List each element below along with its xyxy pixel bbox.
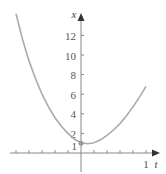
y-tick-10: 10 xyxy=(65,50,77,62)
y-tick-labels: 12 10 8 6 4 2 1 xyxy=(65,30,77,152)
y-tick-4: 4 xyxy=(71,108,77,120)
y-tick-6: 6 xyxy=(71,89,77,101)
x-axis-label: x xyxy=(71,8,77,20)
t-tick-1: 1 xyxy=(143,158,149,170)
t-axis-arrow-icon xyxy=(152,150,160,157)
x-axis-arrow-icon xyxy=(78,13,85,21)
y-tick-1: 1 xyxy=(72,140,78,152)
initial-point-marker xyxy=(79,141,84,146)
y-tick-12: 12 xyxy=(65,30,76,42)
y-tick-8: 8 xyxy=(71,69,77,81)
chart-plot: 12 10 8 6 4 2 1 1 x t xyxy=(0,0,166,174)
t-axis-label: t xyxy=(154,158,158,170)
